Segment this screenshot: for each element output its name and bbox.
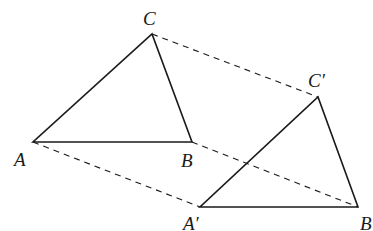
triangle-abc (33, 34, 192, 142)
triangle-a-prime-b-prime-c-prime (200, 97, 358, 207)
label-a-prime: A′ (181, 213, 200, 231)
label-c-prime: C′ (308, 70, 326, 91)
label-b-prime: B (360, 213, 372, 231)
connector-c-to-c-prime (152, 34, 318, 97)
label-a: A (12, 149, 26, 170)
translation-diagram: A B C A′ B C′ (0, 0, 373, 231)
connector-a-to-a-prime (33, 142, 200, 207)
label-c: C (143, 8, 156, 29)
label-b: B (181, 150, 193, 171)
connector-b-to-b-prime (192, 142, 358, 207)
